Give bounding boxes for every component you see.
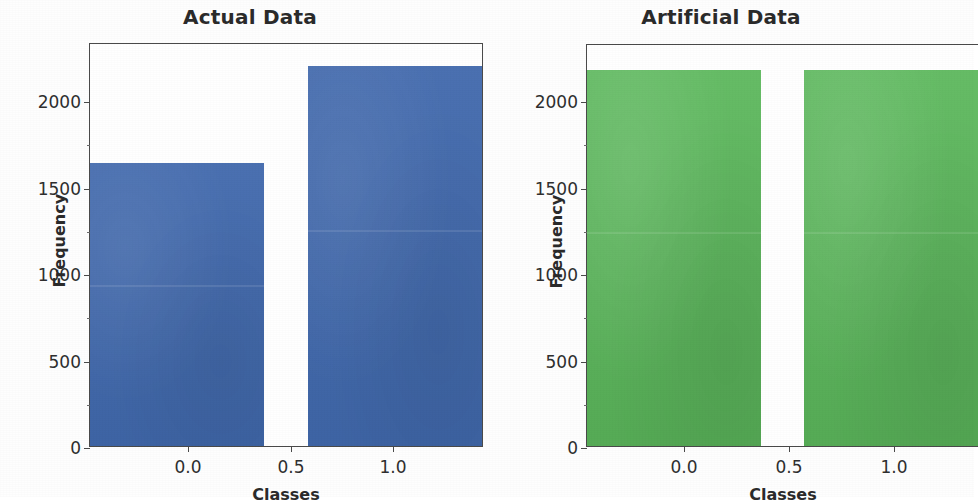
y-tick-label-artificial-0: 0 [567, 438, 578, 458]
x-tick-label-actual-0.5: 0.5 [277, 457, 304, 477]
y-tick-label-actual-0: 0 [70, 438, 81, 458]
x-tick-actual-0.0 [188, 446, 189, 452]
y-tick-actual-1500 [84, 189, 90, 190]
x-axis-label-actual: Classes [90, 485, 482, 504]
y-tick-minor-artificial-1750 [584, 145, 588, 146]
chart-panel-artificial-data: Artificial Data 2000 1500 1000 500 0 [490, 0, 974, 497]
y-tick-actual-2000 [84, 102, 90, 103]
y-tick-artificial-500 [581, 362, 587, 363]
bar-actual-class-0 [90, 163, 264, 446]
y-tick-label-artificial-500: 500 [546, 352, 578, 372]
y-tick-minor-actual-250 [87, 405, 91, 406]
plot-area-artificial-data [587, 45, 978, 446]
x-tick-artificial-0.0 [684, 446, 685, 452]
y-tick-minor-actual-1250 [87, 232, 91, 233]
x-tick-artificial-0.5 [789, 446, 790, 452]
y-tick-label-actual-500: 500 [49, 352, 81, 372]
y-tick-minor-artificial-750 [584, 318, 588, 319]
plot-area-actual-data [90, 44, 482, 446]
bar-artificial-class-0 [587, 70, 761, 446]
y-tick-artificial-1500 [581, 189, 587, 190]
y-tick-actual-0 [84, 448, 90, 449]
y-tick-minor-artificial-250 [584, 405, 588, 406]
bar-artificial-class-1 [804, 70, 978, 446]
chart-panel-actual-data: Actual Data 2000 1500 1000 500 0 [0, 0, 500, 497]
y-tick-label-artificial-2000: 2000 [535, 92, 578, 112]
x-axis-label-artificial: Classes [587, 485, 979, 504]
x-tick-label-artificial-0.5: 0.5 [775, 457, 802, 477]
y-tick-artificial-2000 [581, 102, 587, 103]
y-tick-minor-actual-1750 [87, 145, 91, 146]
y-tick-artificial-1000 [581, 275, 587, 276]
y-tick-minor-actual-750 [87, 318, 91, 319]
y-tick-artificial-0 [581, 448, 587, 449]
x-tick-actual-1.0 [393, 446, 394, 452]
chart-title-actual-data: Actual Data [0, 5, 500, 29]
chart-title-artificial-data: Artificial Data [490, 5, 952, 29]
y-tick-label-actual-2000: 2000 [38, 92, 81, 112]
y-axis-label-artificial: Frequency [547, 198, 566, 288]
y-tick-actual-500 [84, 362, 90, 363]
x-tick-label-artificial-0.0: 0.0 [670, 457, 697, 477]
plot-axes-actual-data: 2000 1500 1000 500 0 0.0 0.5 1.0 Classes… [89, 43, 483, 447]
y-tick-actual-1000 [84, 275, 90, 276]
x-tick-label-actual-1.0: 1.0 [379, 457, 406, 477]
x-tick-actual-0.5 [291, 446, 292, 452]
y-axis-label-actual: Frequency [50, 198, 69, 288]
y-tick-minor-artificial-1250 [584, 232, 588, 233]
x-tick-artificial-1.0 [894, 446, 895, 452]
x-tick-label-actual-0.0: 0.0 [174, 457, 201, 477]
bar-actual-class-1 [308, 66, 482, 446]
plot-axes-artificial-data: 2000 1500 1000 500 0 0.0 0.5 1.0 Classes… [586, 44, 978, 447]
x-tick-label-artificial-1.0: 1.0 [880, 457, 907, 477]
